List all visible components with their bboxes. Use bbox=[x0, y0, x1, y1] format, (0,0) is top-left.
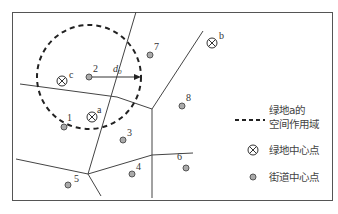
street-center-6 bbox=[183, 165, 189, 171]
legend-street-center-icon bbox=[250, 174, 256, 180]
street-center-1 bbox=[61, 124, 67, 130]
street-center-2 bbox=[86, 74, 92, 80]
edge-main-diagonal bbox=[88, 12, 136, 174]
street-center-2-label: 2 bbox=[93, 63, 98, 74]
voronoi-edges bbox=[16, 12, 203, 198]
voronoi-diagram: d0 a b c bbox=[0, 0, 338, 214]
green-center-a-label: a bbox=[97, 104, 102, 115]
green-center-b bbox=[207, 38, 217, 48]
legend-street-center-label: 街道中心点 bbox=[269, 171, 319, 183]
legend-green-center-icon bbox=[248, 145, 258, 155]
street-center-1-label: 1 bbox=[67, 112, 72, 123]
street-center-5-label: 5 bbox=[74, 173, 79, 184]
street-center-3 bbox=[120, 137, 126, 143]
street-center-6-label: 6 bbox=[177, 151, 182, 162]
street-center-5 bbox=[65, 182, 71, 188]
green-center-b-label: b bbox=[219, 30, 224, 41]
street-center-4 bbox=[129, 171, 135, 177]
legend-buffer-label-line2: 空间作用域 bbox=[269, 118, 320, 130]
legend: 绿地a的 空间作用域 绿地中心点 街道中心点 bbox=[235, 104, 320, 183]
green-center-c bbox=[57, 76, 67, 86]
street-center-7-label: 7 bbox=[154, 41, 159, 52]
edge-right-diagonal bbox=[152, 31, 203, 109]
green-center-a bbox=[87, 112, 97, 122]
legend-buffer-label-line1: 绿地a的 bbox=[269, 104, 305, 116]
diagram-canvas: d0 a b c bbox=[0, 0, 338, 214]
edge-bottom-branch bbox=[88, 174, 101, 196]
street-center-8-label: 8 bbox=[186, 92, 191, 103]
legend-green-center-label: 绿地中心点 bbox=[269, 144, 319, 156]
green-center-c-label: c bbox=[69, 69, 74, 80]
edge-lower-left bbox=[16, 159, 88, 174]
street-center-8 bbox=[179, 103, 185, 109]
street-center-7 bbox=[147, 52, 153, 58]
street-center-4-label: 4 bbox=[136, 161, 141, 172]
street-center-3-label: 3 bbox=[127, 127, 132, 138]
street-centers bbox=[61, 52, 189, 188]
